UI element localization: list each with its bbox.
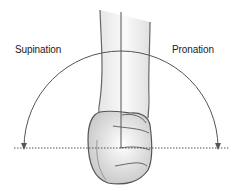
supination-label: Supination <box>15 44 61 55</box>
arrowhead-right-icon <box>215 143 221 150</box>
pronation-label: Pronation <box>172 44 214 55</box>
supination-pronation-diagram <box>0 0 244 191</box>
arrowhead-left-icon <box>21 143 27 150</box>
forearm <box>100 10 150 120</box>
